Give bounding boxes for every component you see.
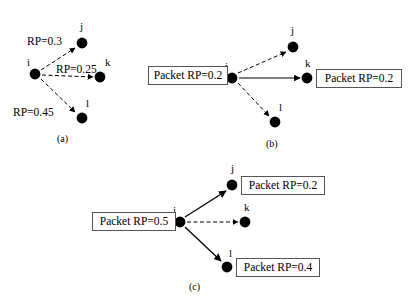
edge-label-i-k-a: RP=0.25 <box>56 64 97 76</box>
node-j-b <box>288 42 299 53</box>
packet-box-k-b: Packet RP=0.2 <box>316 69 402 88</box>
node-label-j-c: j <box>231 163 234 174</box>
panel-caption-a: (a) <box>57 134 68 144</box>
figure-root: i j k l RP=0.3 RP=0.25 RP=0.45 (a) i j k… <box>0 0 413 306</box>
node-l-c <box>222 262 233 273</box>
node-label-k-b: k <box>305 58 311 69</box>
node-i-b <box>227 73 238 84</box>
node-label-j-b: j <box>291 25 294 36</box>
node-label-l-a: l <box>86 98 89 109</box>
edge-i-l-b <box>238 83 269 116</box>
edge-i-l-c <box>185 227 221 261</box>
node-i-c <box>175 217 186 228</box>
node-k-b <box>302 73 313 84</box>
node-j-c <box>227 180 238 191</box>
node-label-l-c: l <box>229 248 232 259</box>
edge-label-i-l-a: RP=0.45 <box>13 107 54 119</box>
node-label-l-b: l <box>279 102 282 113</box>
packet-box-source-b: Packet RP=0.2 <box>148 66 228 85</box>
node-l-a <box>77 113 88 124</box>
edge-i-j-b <box>238 52 286 73</box>
node-label-k-a: k <box>105 57 111 68</box>
node-i-a <box>30 69 41 80</box>
node-label-j-a: j <box>80 21 83 32</box>
packet-box-source-c: Packet RP=0.5 <box>92 212 176 231</box>
packet-box-l-c: Packet RP=0.4 <box>236 258 320 277</box>
edge-i-j-c <box>185 191 226 217</box>
panel-b-edges <box>238 52 300 116</box>
node-j-a <box>77 38 88 49</box>
panel-caption-c: (c) <box>189 282 200 292</box>
node-l-b <box>270 117 281 128</box>
panel-caption-b: (b) <box>266 139 278 149</box>
packet-box-j-c: Packet RP=0.2 <box>241 176 325 195</box>
node-k-c <box>240 217 251 228</box>
edge-label-i-j-a: RP=0.3 <box>27 36 62 48</box>
node-label-k-c: k <box>244 202 250 213</box>
node-label-i-a: i <box>27 57 30 68</box>
